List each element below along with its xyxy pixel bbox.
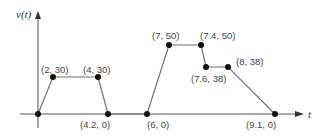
- point-7.4-50: [198, 42, 204, 48]
- label-7.4-50: (7.4, 50): [200, 30, 235, 41]
- point-9.1-0: [272, 111, 278, 117]
- label-4-30: (4, 30): [83, 64, 110, 75]
- point-4.2-0: [105, 111, 111, 117]
- point-7-50: [166, 42, 172, 48]
- label-8-38: (8, 38): [236, 56, 263, 67]
- y-axis-label: v(t): [16, 8, 32, 21]
- x-axis-arrow-icon: [295, 111, 304, 117]
- label-4.2-0: (4.2, 0): [80, 119, 110, 130]
- point-6-0: [144, 111, 150, 117]
- label-2-30: (2, 30): [41, 64, 68, 75]
- label-6-0: (6, 0): [147, 119, 169, 130]
- y-axis-arrow-icon: [35, 11, 41, 19]
- label-7.6-38: (7.6, 38): [191, 73, 226, 84]
- velocity-time-graph: v(t) t (2, 30) (4, 30) (4.2, 0) (6, 0) (…: [0, 0, 324, 137]
- data-points: [35, 42, 278, 117]
- label-7-50: (7, 50): [152, 30, 179, 41]
- x-axis-label: t: [308, 108, 312, 120]
- point-8-38: [225, 64, 231, 70]
- point-7.6-38: [203, 64, 209, 70]
- label-9.1-0: (9.1, 0): [246, 119, 276, 130]
- point-origin: [35, 111, 41, 117]
